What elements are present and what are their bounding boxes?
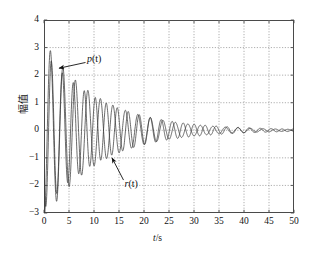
x-tick-label: 40 [234,216,254,226]
curve-label-r-arg: (t) [128,178,137,189]
x-tick-label: 45 [259,216,279,226]
curve-label-p-arg: (t) [92,53,101,64]
x-tick-label: 25 [159,216,179,226]
y-axis-label: 幅值 [15,84,30,124]
x-tick-label: 0 [34,216,54,226]
gridlines [44,20,294,213]
curve-label-p: p(t) [87,53,101,64]
y-tick-label: 2 [17,69,39,79]
x-tick-label: 5 [59,216,79,226]
x-axis-label-unit: /s [156,233,162,243]
y-tick-label: 3 [17,42,39,52]
x-tick-label: 35 [209,216,229,226]
x-tick-label: 10 [84,216,104,226]
x-axis-label: t/s [0,233,315,243]
x-tick-label: 20 [134,216,154,226]
y-tick-label: −2 [17,179,39,189]
y-tick-label: −1 [17,152,39,162]
x-tick-label: 50 [284,216,304,226]
x-tick-label: 15 [109,216,129,226]
curve-label-r: r(t) [125,178,138,189]
figure-chart-damped-response: 43210−1−2−3 05101520253035404550 幅值 t/s … [0,0,315,255]
y-tick-label: 4 [17,14,39,24]
y-tick-label: 0 [17,124,39,134]
x-tick-label: 30 [184,216,204,226]
